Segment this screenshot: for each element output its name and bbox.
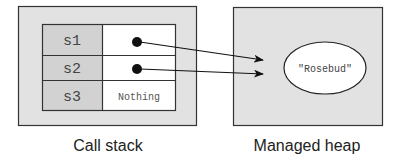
row-label-s2: s2 (63, 61, 81, 78)
row-value-s3: Nothing (118, 92, 160, 103)
call-stack-panel: s1 s2 s3 Nothing (19, 7, 197, 126)
managed-heap-panel: "Rosebud" (234, 8, 383, 126)
managed-heap-caption: Managed heap (254, 137, 361, 154)
call-stack-table: s1 s2 s3 Nothing (43, 25, 176, 111)
call-stack-caption: Call stack (73, 137, 143, 154)
row-label-s1: s1 (63, 33, 81, 50)
heap-object-value: "Rosebud" (298, 64, 352, 75)
row-label-s3: s3 (63, 89, 81, 106)
diagram-canvas: s1 s2 s3 Nothing "Rosebud" Call stack Ma… (0, 0, 401, 160)
